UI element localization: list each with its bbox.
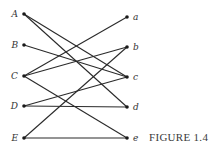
- figure-caption: FIGURE 1.4: [149, 131, 208, 143]
- node-d: [125, 105, 129, 109]
- edge-D-d: [24, 106, 127, 107]
- node-E: [22, 136, 26, 140]
- node-a: [125, 15, 129, 19]
- node-B: [22, 43, 26, 47]
- node-A: [22, 12, 26, 16]
- node-label-b: b: [133, 42, 139, 52]
- node-b: [125, 45, 129, 49]
- node-group: [22, 12, 129, 140]
- node-label-A: A: [11, 9, 19, 19]
- label-group: ABCDEabcde: [10, 9, 139, 143]
- node-label-e: e: [133, 133, 138, 143]
- edge-D-c: [24, 77, 127, 106]
- node-label-c: c: [133, 72, 138, 82]
- node-D: [22, 104, 26, 108]
- node-label-d: d: [133, 102, 139, 112]
- node-label-E: E: [10, 133, 18, 143]
- node-label-a: a: [133, 12, 138, 22]
- node-c: [125, 75, 129, 79]
- node-e: [125, 136, 129, 140]
- node-label-D: D: [10, 101, 18, 111]
- node-label-C: C: [11, 71, 18, 81]
- node-C: [22, 74, 26, 78]
- edge-group: [24, 14, 127, 138]
- node-label-B: B: [10, 40, 18, 50]
